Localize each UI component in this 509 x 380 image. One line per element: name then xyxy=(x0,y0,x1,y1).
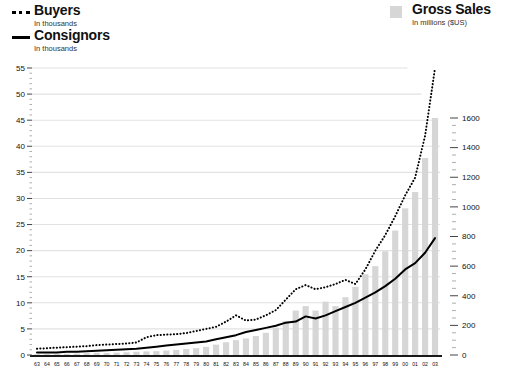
dotted-line-icon xyxy=(12,11,30,14)
svg-text:82: 82 xyxy=(223,361,229,367)
svg-text:98: 98 xyxy=(382,361,388,367)
svg-text:70: 70 xyxy=(104,361,110,367)
chart-canvas: 0510152025303540455055 02004006008001000… xyxy=(0,56,509,380)
svg-text:35: 35 xyxy=(16,168,25,177)
svg-text:77: 77 xyxy=(173,361,179,367)
svg-text:200: 200 xyxy=(462,321,476,330)
svg-text:600: 600 xyxy=(462,262,476,271)
svg-text:88: 88 xyxy=(283,361,289,367)
svg-text:91: 91 xyxy=(313,361,319,367)
chart-page: y Buyers In thousands Consignors In thou… xyxy=(0,0,509,380)
svg-text:84: 84 xyxy=(243,361,249,367)
chart-legend: Buyers In thousands Consignors In thousa… xyxy=(0,0,509,56)
svg-text:400: 400 xyxy=(462,292,476,301)
svg-text:03: 03 xyxy=(432,361,438,367)
svg-text:68: 68 xyxy=(84,361,90,367)
legend-item-buyers: Buyers In thousands xyxy=(34,3,80,28)
svg-text:1000: 1000 xyxy=(462,203,480,212)
svg-text:0: 0 xyxy=(21,351,26,360)
svg-text:96: 96 xyxy=(362,361,368,367)
svg-text:64: 64 xyxy=(44,361,50,367)
svg-text:74: 74 xyxy=(144,361,150,367)
solid-line-icon xyxy=(12,36,30,39)
svg-text:1600: 1600 xyxy=(462,114,480,123)
svg-text:63: 63 xyxy=(34,361,40,367)
svg-text:75: 75 xyxy=(153,361,159,367)
svg-text:94: 94 xyxy=(343,361,349,367)
right-axis-labels: 02004006008001000120014001600 xyxy=(450,114,480,360)
svg-text:79: 79 xyxy=(193,361,199,367)
svg-text:83: 83 xyxy=(233,361,239,367)
svg-text:78: 78 xyxy=(183,361,189,367)
svg-text:15: 15 xyxy=(16,273,25,282)
svg-text:92: 92 xyxy=(323,361,329,367)
legend-item-gross-sales: Gross Sales In millions ($US) xyxy=(412,2,491,27)
svg-text:89: 89 xyxy=(293,361,299,367)
svg-text:97: 97 xyxy=(372,361,378,367)
legend-sublabel-consignors: In thousands xyxy=(34,44,110,53)
svg-text:95: 95 xyxy=(353,361,359,367)
svg-text:40: 40 xyxy=(16,142,25,151)
left-axis-labels: 0510152025303540455055 xyxy=(16,64,32,360)
chart-plot-area: 0510152025303540455055 02004006008001000… xyxy=(0,56,509,380)
svg-text:00: 00 xyxy=(402,361,408,367)
svg-text:86: 86 xyxy=(263,361,269,367)
svg-text:1200: 1200 xyxy=(462,173,480,182)
x-axis-labels: 6364656667686970717273747576777879808182… xyxy=(34,361,438,367)
svg-text:45: 45 xyxy=(16,116,25,125)
svg-text:55: 55 xyxy=(16,64,25,73)
svg-text:69: 69 xyxy=(94,361,100,367)
svg-text:65: 65 xyxy=(54,361,60,367)
legend-label-gross-sales: Gross Sales xyxy=(412,2,491,17)
svg-text:80: 80 xyxy=(203,361,209,367)
svg-text:85: 85 xyxy=(253,361,259,367)
svg-text:99: 99 xyxy=(392,361,398,367)
svg-text:800: 800 xyxy=(462,232,476,241)
square-swatch-icon xyxy=(390,6,402,18)
svg-text:10: 10 xyxy=(16,299,25,308)
svg-text:01: 01 xyxy=(412,361,418,367)
svg-text:20: 20 xyxy=(16,246,25,255)
svg-text:0: 0 xyxy=(462,351,467,360)
legend-sublabel-gross-sales: In millions ($US) xyxy=(412,18,491,27)
svg-text:02: 02 xyxy=(422,361,428,367)
legend-item-consignors: Consignors In thousands xyxy=(34,28,110,53)
legend-label-buyers: Buyers xyxy=(34,3,80,18)
svg-text:67: 67 xyxy=(74,361,80,367)
legend-label-consignors: Consignors xyxy=(34,28,110,43)
svg-text:1400: 1400 xyxy=(462,143,480,152)
svg-text:93: 93 xyxy=(333,361,339,367)
svg-text:71: 71 xyxy=(114,361,120,367)
svg-text:90: 90 xyxy=(303,361,309,367)
svg-text:50: 50 xyxy=(16,90,25,99)
svg-text:30: 30 xyxy=(16,194,25,203)
svg-text:81: 81 xyxy=(213,361,219,367)
svg-text:76: 76 xyxy=(163,361,169,367)
svg-text:87: 87 xyxy=(273,361,279,367)
svg-text:73: 73 xyxy=(134,361,140,367)
svg-text:5: 5 xyxy=(21,325,26,334)
bars-group xyxy=(34,118,438,355)
svg-text:25: 25 xyxy=(16,220,25,229)
svg-text:72: 72 xyxy=(124,361,130,367)
svg-text:66: 66 xyxy=(64,361,70,367)
